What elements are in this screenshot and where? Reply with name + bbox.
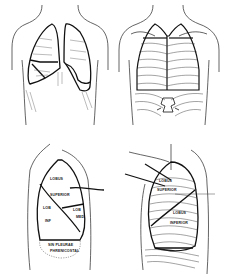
lateral-lobes-view: LOBUS SUPERIOR LOB INF LOB MED SIN PLEUR… [0,140,120,276]
label-lob-med-2: MED [76,215,85,219]
anterior-thorax-view [0,0,120,135]
anterior-thorax-drawing [0,0,120,135]
posterior-thorax-view [115,0,235,135]
label-sinus-1: SIN PLEURAE [48,243,74,247]
label-lobus-inferior-2: INFERIOR [170,221,188,225]
label-lobus-superior-1: LOBUS [159,179,173,183]
label-superior: SUPERIOR [50,193,70,197]
lateral-ribs-drawing: LOBUS SUPERIOR LOBUS INFERIOR [115,140,235,276]
label-lob-inf-1: LOB [43,206,51,210]
label-lobus: LOBUS [50,177,64,181]
label-lobus-superior-2: SUPERIOR [157,188,177,192]
label-sinus-2: PHRENICOSTAL [50,249,80,253]
lateral-ribs-view: LOBUS SUPERIOR LOBUS INFERIOR [115,140,235,276]
posterior-thorax-drawing [115,0,235,135]
label-lob-med-1: LOB [73,208,81,212]
label-lobus-inferior-1: LOBUS [173,211,187,215]
lateral-lobes-drawing: LOBUS SUPERIOR LOB INF LOB MED SIN PLEUR… [0,140,120,276]
label-lob-inf-2: INF [45,219,52,223]
